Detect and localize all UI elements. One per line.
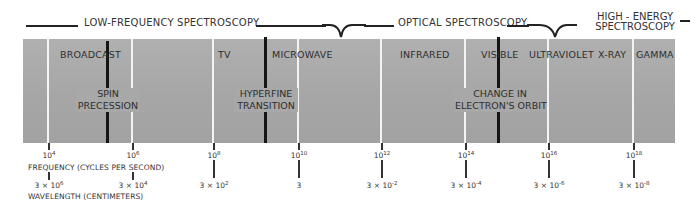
frequency-tick — [381, 143, 383, 150]
decade-line — [380, 39, 382, 143]
freq-exp: 6 — [136, 150, 140, 156]
wave-exp: -4 — [476, 180, 481, 186]
process-line2: ELECTRON'S ORBIT — [455, 100, 545, 112]
wavelength-tick — [633, 160, 635, 178]
region-visible: VISIBLE — [481, 50, 518, 60]
decade-line — [212, 39, 214, 143]
wavelength-label: 3 × 102 — [184, 181, 244, 190]
freq-base: 10 — [458, 151, 468, 160]
frequency-label: 104 — [29, 151, 69, 160]
freq-base: 10 — [626, 151, 636, 160]
freq-exp: 16 — [550, 150, 557, 156]
frequency-label: 1018 — [614, 151, 654, 160]
wave-mantissa: 3 × 10 — [200, 181, 225, 190]
process-hyperfine-transition: HYPERFINE TRANSITION — [234, 88, 298, 112]
wavelength-label: 3 × 10-6 — [519, 181, 579, 190]
wave-mantissa: 3 × 10 — [619, 181, 644, 190]
high-energy-spectroscopy-label: HIGH - ENERGY SPECTROSCOPY — [583, 12, 687, 32]
wave-exp: -8 — [644, 180, 649, 186]
freq-base: 10 — [541, 151, 551, 160]
wave-mantissa: 3 — [297, 181, 302, 190]
wavelength-tick — [132, 172, 134, 180]
wave-exp: -2 — [392, 180, 397, 186]
process-line2: PRECESSION — [77, 100, 139, 112]
wave-mantissa: 3 × 10 — [367, 181, 392, 190]
wavelength-label: 3 × 104 — [103, 181, 163, 190]
wavelength-label: 3 × 10-8 — [604, 181, 664, 190]
frequency-tick — [213, 143, 215, 150]
freq-exp: 18 — [635, 150, 642, 156]
wave-exp: -6 — [559, 180, 564, 186]
frequency-label: 108 — [194, 151, 234, 160]
wave-exp: 4 — [144, 180, 148, 186]
range-bar-optical-right — [507, 25, 529, 27]
wavelength-tick — [465, 160, 467, 178]
region-infrared: INFRARED — [400, 50, 450, 60]
wave-exp: 2 — [225, 180, 229, 186]
freq-base: 10 — [126, 151, 136, 160]
wavelength-tick — [381, 160, 383, 178]
decade-line — [47, 39, 49, 143]
wavelength-label: 3 × 10-2 — [352, 181, 412, 190]
range-bar-optical-left — [364, 25, 394, 27]
freq-exp: 8 — [217, 150, 221, 156]
wave-exp: 6 — [60, 180, 64, 186]
frequency-tick — [48, 143, 50, 150]
frequency-tick — [465, 143, 467, 150]
range-bar-right — [680, 20, 690, 22]
freq-base: 10 — [207, 151, 217, 160]
process-line2: TRANSITION — [235, 100, 297, 112]
low-frequency-spectroscopy-label: LOW-FREQUENCY SPECTROSCOPY — [84, 18, 259, 28]
freq-exp: 12 — [383, 150, 390, 156]
wavelength-tick — [298, 160, 300, 178]
brace-separator-icon — [322, 20, 366, 40]
wavelength-label: 3 × 10-4 — [436, 181, 496, 190]
region-ultraviolet: ULTRAVIOLET — [529, 50, 594, 60]
range-bar-low-right — [256, 25, 326, 27]
region-microwave: MICROWAVE — [272, 50, 333, 60]
process-line1: HYPERFINE — [235, 88, 297, 100]
frequency-tick — [548, 143, 550, 150]
wavelength-axis-title: WAVELENGTH (CENTIMETERS) — [28, 192, 143, 201]
region-tv: TV — [218, 50, 231, 60]
range-bar-left — [26, 25, 78, 27]
region-broadcast: BROADCAST — [60, 50, 121, 60]
frequency-label: 1010 — [279, 151, 319, 160]
frequency-axis-title: FREQUENCY (CYCLES PER SECOND) — [28, 163, 164, 172]
freq-exp: 10 — [300, 150, 307, 156]
wave-mantissa: 3 × 10 — [451, 181, 476, 190]
freq-exp: 4 — [52, 150, 56, 156]
process-change-in-electron-orbit: CHANGE IN ELECTRON'S ORBIT — [454, 88, 546, 112]
wavelength-label: 3 × 106 — [19, 181, 79, 190]
wave-mantissa: 3 × 10 — [534, 181, 559, 190]
wavelength-tick — [213, 160, 215, 178]
region-gamma: GAMMA — [636, 50, 674, 60]
frequency-label: 1012 — [362, 151, 402, 160]
frequency-label: 1016 — [529, 151, 569, 160]
brace-separator-icon — [527, 20, 577, 40]
wavelength-tick — [48, 172, 50, 180]
decade-line — [632, 39, 634, 143]
frequency-tick — [298, 143, 300, 150]
freq-base: 10 — [374, 151, 384, 160]
frequency-label: 106 — [113, 151, 153, 160]
freq-base: 10 — [291, 151, 301, 160]
region-x-ray: X-RAY — [598, 50, 626, 60]
frequency-label: 1014 — [446, 151, 486, 160]
frequency-tick — [132, 143, 134, 150]
high-energy-line2: SPECTROSCOPY — [583, 22, 687, 32]
freq-base: 10 — [42, 151, 52, 160]
wavelength-label: 3 — [269, 181, 329, 190]
process-line1: SPIN — [77, 88, 139, 100]
process-line1: CHANGE IN — [455, 88, 545, 100]
wave-mantissa: 3 × 10 — [35, 181, 60, 190]
process-spin-precession: SPIN PRECESSION — [76, 88, 140, 112]
wavelength-tick — [548, 160, 550, 178]
wave-mantissa: 3 × 10 — [119, 181, 144, 190]
frequency-tick — [633, 143, 635, 150]
freq-exp: 14 — [467, 150, 474, 156]
